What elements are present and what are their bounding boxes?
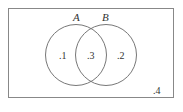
a-only-value: .1 (59, 50, 67, 61)
set-b-label: B (102, 11, 109, 23)
outside-value: .4 (153, 85, 161, 96)
set-a-label: A (72, 11, 80, 23)
venn-diagram: A B .1 .3 .2 .4 (0, 0, 183, 112)
b-only-value: .2 (117, 50, 125, 61)
intersection-value: .3 (87, 50, 95, 61)
